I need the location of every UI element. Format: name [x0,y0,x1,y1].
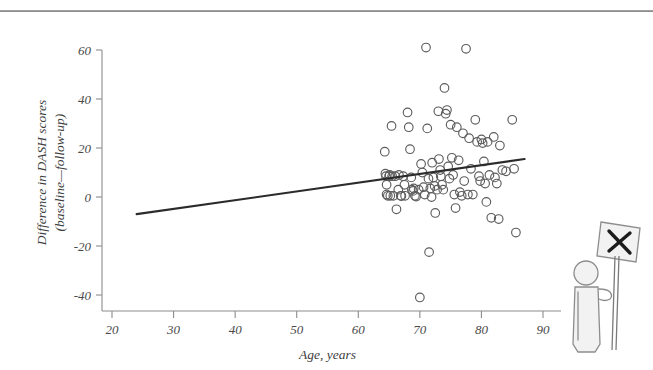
x-tick-label: 20 [106,322,120,337]
y-tick-label: 60 [78,43,92,58]
scatter-point [406,145,415,154]
scatter-point [404,123,413,132]
scatter-point [471,116,480,125]
scatter-point [465,134,474,143]
scatter-point [481,179,490,188]
regression-line [137,159,525,214]
scatter-point [493,179,502,188]
scatter-point [469,190,478,199]
scatter-point [423,124,432,133]
figure-page: -40-2002040602030405060708090Age, yearsD… [0,0,653,370]
scatter-point [439,185,448,194]
scatter-point [422,43,431,52]
scatter-point [387,122,396,131]
x-tick-label: 40 [229,322,243,337]
x-tick-label: 80 [475,322,489,337]
scatter-point [459,129,468,138]
scatter-point [380,147,389,156]
trendline [137,159,525,214]
scatter-point [403,108,412,117]
y-tick-label: -20 [74,239,92,254]
x-tick-label: 30 [166,322,181,337]
scatter-point [425,248,434,257]
y-tick-label: -40 [74,288,92,303]
scatter-point [476,177,485,186]
axes [96,50,561,318]
scatter-point [431,209,440,218]
scatter-point [382,180,391,189]
y-tick-label: 20 [78,141,92,156]
scatter-point [392,205,401,214]
scatter-figure: -40-2002040602030405060708090Age, yearsD… [0,0,653,370]
y-tick-label: 0 [85,190,92,205]
x-tick-label: 90 [537,322,551,337]
scatter-point [510,165,519,174]
scatter-point [417,160,426,169]
scatter-point [416,293,425,302]
scatter-point [462,44,471,53]
scatter-point [489,133,498,142]
x-tick-label: 70 [413,322,427,337]
axis-labels: -40-2002040602030405060708090Age, yearsD… [34,43,550,363]
scatter-point [508,116,517,125]
y-tick-label: 40 [78,92,92,107]
y-axis-title-line-2: (baseline—follow-up) [52,113,67,231]
scatter-point [440,84,449,93]
x-tick-label: 50 [290,322,304,337]
scatter-point [464,190,473,199]
y-axis-title-line-1: Difference in DASH scores [34,100,49,247]
scatter-point [482,198,491,207]
person-holding-x-sign-icon [573,222,640,352]
x-axis-title: Age, years [298,347,356,362]
scatter-point [435,155,444,164]
scatter-point [491,173,500,182]
scatter-point [496,141,505,150]
scatter-point [485,171,494,180]
scatter-plot-svg: -40-2002040602030405060708090Age, yearsD… [0,0,653,370]
scatter-point [512,228,521,237]
scatter-point [460,177,469,186]
data-points [380,43,520,302]
x-tick-label: 60 [352,322,366,337]
scatter-point [451,204,460,213]
